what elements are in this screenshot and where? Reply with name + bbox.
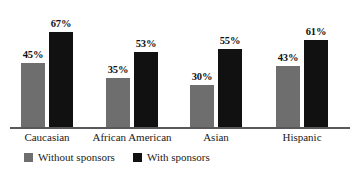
bar-rect — [304, 40, 328, 128]
legend-swatch-icon — [133, 153, 142, 162]
legend-swatch-icon — [24, 153, 33, 162]
bar-rect — [190, 85, 214, 128]
bar-rect — [106, 78, 130, 128]
grouped-bar-chart: 45%67%35%53%30%55%43%61% CaucasianAfrica… — [0, 0, 361, 174]
category-label-african-american: African American — [92, 131, 171, 143]
bar-african-american-without-sponsors: 35% — [106, 78, 130, 128]
bar-caucasian-with-sponsors: 67% — [49, 32, 73, 128]
category-axis-labels: CaucasianAfrican AmericanAsianHispanic — [0, 131, 361, 149]
bar-asian-without-sponsors: 30% — [190, 85, 214, 128]
bar-value-label: 61% — [306, 26, 327, 37]
x-axis-line — [10, 127, 350, 129]
bar-value-label: 67% — [51, 18, 72, 29]
bar-rect — [21, 63, 45, 128]
plot-area: 45%67%35%53%30%55%43%61% — [0, 0, 361, 128]
legend-label: With sponsors — [147, 152, 210, 163]
bar-value-label: 43% — [278, 52, 299, 63]
bar-asian-with-sponsors: 55% — [218, 49, 242, 128]
bar-rect — [134, 52, 158, 128]
bar-african-american-with-sponsors: 53% — [134, 52, 158, 128]
legend-label: Without sponsors — [38, 152, 115, 163]
bar-hispanic-with-sponsors: 61% — [304, 40, 328, 128]
category-label-asian: Asian — [203, 131, 229, 143]
bar-rect — [49, 32, 73, 128]
category-label-hispanic: Hispanic — [282, 131, 321, 143]
bar-value-label: 55% — [220, 35, 241, 46]
bar-value-label: 30% — [192, 71, 213, 82]
bar-value-label: 45% — [23, 49, 44, 60]
category-label-caucasian: Caucasian — [24, 131, 69, 143]
chart-legend: Without sponsorsWith sponsors — [0, 152, 361, 168]
bar-value-label: 35% — [108, 64, 129, 75]
bar-value-label: 53% — [136, 38, 157, 49]
bar-rect — [276, 66, 300, 128]
bar-hispanic-without-sponsors: 43% — [276, 66, 300, 128]
legend-item-with-sponsors[interactable]: With sponsors — [133, 152, 210, 163]
bar-caucasian-without-sponsors: 45% — [21, 63, 45, 128]
legend-item-without-sponsors[interactable]: Without sponsors — [24, 152, 115, 163]
bar-rect — [218, 49, 242, 128]
